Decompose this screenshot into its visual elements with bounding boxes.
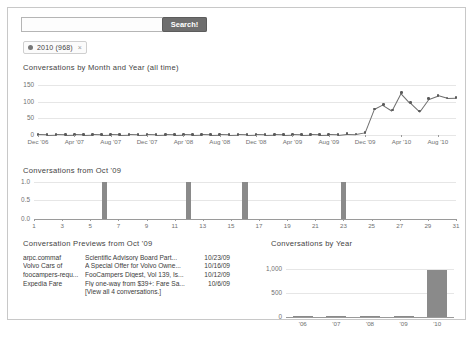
y-axis-tick-label: 500	[258, 289, 282, 296]
y-axis-tick-label: 0	[258, 313, 282, 320]
preview-date: 10/6/09	[188, 280, 230, 287]
app-page: Search! 2010 (968) × Conversations by Mo…	[0, 0, 475, 337]
bar	[326, 316, 346, 317]
preview-subject: Scientific Advisory Board Part...	[85, 254, 188, 261]
list-item[interactable]: Expedia Fare Fly one-way from $39+: Fare…	[23, 279, 258, 288]
conversation-previews-list: arpc.commaf Scientific Advisory Board Pa…	[23, 253, 258, 296]
list-item[interactable]: Volvo Cars of A Special Offer for Volvo …	[23, 262, 258, 271]
preview-sender: foocampers-requ...	[23, 271, 85, 278]
list-item[interactable]: arpc.commaf Scientific Advisory Board Pa…	[23, 253, 258, 262]
preview-sender: arpc.commaf	[23, 254, 85, 261]
preview-sender: Expedia Fare	[23, 280, 85, 287]
content-frame: Search! 2010 (968) × Conversations by Mo…	[7, 7, 466, 320]
x-axis-line	[286, 317, 454, 318]
bar	[293, 316, 313, 317]
y-axis-tick-label: 1,000	[258, 265, 282, 272]
x-axis-tick-label: '09	[392, 320, 416, 327]
list-item[interactable]: foocampers-requ... FooCampers Digest, Vo…	[23, 270, 258, 279]
preview-subject: Fly one-way from $39+: Fare Sa...	[85, 280, 188, 287]
preview-subject: A Special Offer for Volvo Owne...	[85, 262, 188, 269]
x-axis-tick-label: '08	[358, 320, 382, 327]
bar	[360, 316, 380, 317]
x-axis-tick-label: '07	[324, 320, 348, 327]
x-axis-tick-label: '06	[291, 320, 315, 327]
preview-date: 10/12/09	[188, 271, 230, 278]
preview-date: 10/16/09	[188, 262, 230, 269]
x-axis-tick-label: '10	[425, 320, 449, 327]
view-all-row: [View all 4 conversations.]	[23, 287, 258, 296]
view-all-conversations-link[interactable]: [View all 4 conversations.]	[85, 288, 161, 295]
bar	[427, 270, 447, 317]
preview-date: 10/23/09	[188, 254, 230, 261]
preview-sender: Volvo Cars of	[23, 262, 85, 269]
preview-subject: FooCampers Digest, Vol 139, Is...	[85, 271, 188, 278]
bar	[394, 316, 414, 317]
